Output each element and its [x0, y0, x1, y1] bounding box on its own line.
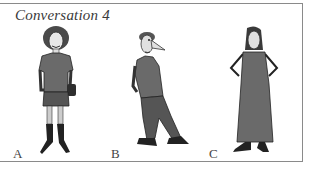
figure-a-label: A: [13, 146, 22, 162]
figure-a-illustration: [30, 22, 85, 154]
figure-c-label: C: [209, 146, 218, 162]
figure-c-illustration: [225, 24, 285, 154]
figure-b-label: B: [111, 146, 120, 162]
figure-b-illustration: [125, 26, 195, 154]
